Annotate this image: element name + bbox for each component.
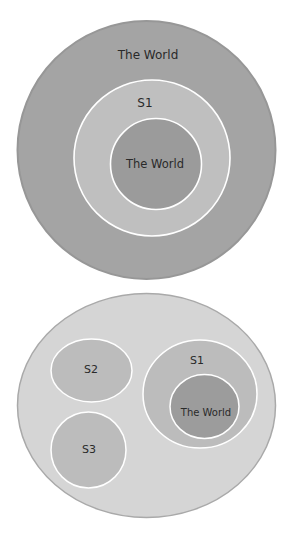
s3-set-label: S3 xyxy=(82,443,96,456)
s1-ring-label: S1 xyxy=(137,96,152,110)
s2-set-label: S2 xyxy=(84,363,98,376)
outer-world-label: The World xyxy=(117,48,179,62)
diagram-canvas: The World S1 The World S2 S3 S1 The Worl… xyxy=(0,0,300,537)
top-diagram: The World S1 The World xyxy=(18,21,276,279)
bottom-world-label: The World xyxy=(180,407,231,418)
bottom-diagram: S2 S3 S1 The World xyxy=(18,294,276,518)
s1-set-label: S1 xyxy=(190,354,204,367)
inner-world-label: The World xyxy=(125,157,184,171)
